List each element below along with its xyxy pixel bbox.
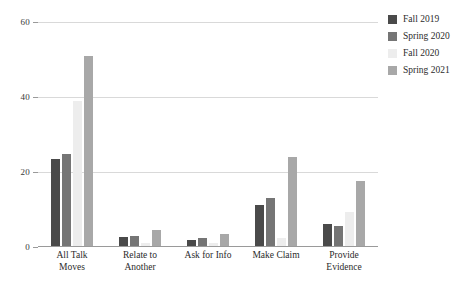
bar[interactable] [73, 101, 82, 247]
y-axis: 0204060 [0, 0, 34, 247]
bar[interactable] [323, 224, 332, 247]
legend-item-label: Spring 2020 [403, 31, 450, 41]
legend-item[interactable]: Spring 2020 [388, 31, 450, 41]
bar[interactable] [356, 181, 365, 247]
legend-item[interactable]: Spring 2021 [388, 65, 450, 75]
bar[interactable] [288, 157, 297, 247]
x-axis-category-label: ProvideEvidence [312, 250, 376, 286]
bar-group [108, 22, 172, 247]
bar[interactable] [152, 230, 161, 247]
legend-swatch-icon [388, 66, 397, 75]
bar-chart: 0204060 All TalkMovesRelate toAnotherAsk… [0, 0, 473, 289]
legend-item[interactable]: Fall 2020 [388, 48, 450, 58]
bar-group [176, 22, 240, 247]
y-axis-tick-label: 20 [21, 167, 30, 177]
bar-group [40, 22, 104, 247]
x-axis-category-label: Make Claim [244, 250, 308, 286]
plot-area [38, 22, 378, 247]
x-axis-labels: All TalkMovesRelate toAnotherAsk for Inf… [38, 250, 378, 286]
y-axis-tick-label: 60 [21, 17, 30, 27]
bar[interactable] [334, 226, 343, 247]
x-axis-category-label: All TalkMoves [40, 250, 104, 286]
y-axis-tick-mark [33, 247, 38, 248]
bar[interactable] [255, 205, 264, 247]
y-axis-tick-label: 40 [21, 92, 30, 102]
legend-swatch-icon [388, 32, 397, 41]
bar[interactable] [345, 212, 354, 247]
bar[interactable] [84, 56, 93, 247]
legend: Fall 2019Spring 2020Fall 2020Spring 2021 [388, 14, 450, 75]
legend-item-label: Fall 2020 [403, 48, 439, 58]
legend-item-label: Fall 2019 [403, 14, 439, 24]
x-axis-category-label: Ask for Info [176, 250, 240, 286]
legend-swatch-icon [388, 49, 397, 58]
x-axis-category-label: Relate toAnother [108, 250, 172, 286]
bar-group [312, 22, 376, 247]
legend-swatch-icon [388, 15, 397, 24]
bar[interactable] [62, 154, 71, 247]
bar-group [244, 22, 308, 247]
bar-groups [38, 22, 378, 247]
bar[interactable] [266, 198, 275, 247]
x-axis-line [38, 246, 378, 247]
bar[interactable] [51, 159, 60, 247]
y-axis-tick-label: 0 [25, 242, 30, 252]
legend-item-label: Spring 2021 [403, 65, 450, 75]
legend-item[interactable]: Fall 2019 [388, 14, 450, 24]
